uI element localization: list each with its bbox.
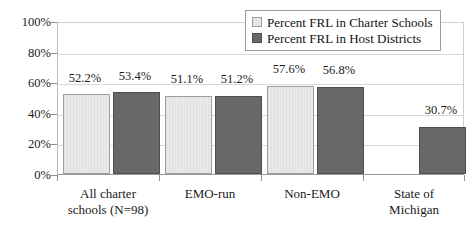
bar-host-all-charter-schools (113, 92, 160, 174)
bar-host-emo-run (215, 96, 262, 174)
legend-item-label: Percent FRL in Host Districts (267, 32, 421, 45)
y-tick-label: 100% (5, 16, 51, 29)
gridline (58, 84, 463, 85)
bar-value-label: 57.6% (273, 63, 305, 76)
x-tick-mark (159, 175, 160, 181)
legend-item-label: Percent FRL in Charter Schools (267, 16, 433, 29)
bar-host-non-emo (317, 87, 364, 174)
bar-value-label: 53.4% (119, 70, 151, 83)
bar-charter-emo-run (165, 96, 212, 174)
bar-value-label: 51.2% (221, 73, 253, 86)
y-axis: 100% 80% 60% 40% 20% 0% (0, 0, 51, 240)
bar-value-label: 56.8% (323, 64, 355, 77)
bar-value-label: 30.7% (425, 104, 457, 117)
y-tick-label: 80% (5, 46, 51, 59)
x-category-label-emo-run: EMO-run (185, 186, 236, 202)
x-tick-mark (57, 175, 58, 181)
y-tick-label: 20% (5, 138, 51, 151)
bar-charter-all-charter-schools (63, 94, 110, 174)
y-tick-label: 0% (5, 169, 51, 182)
bar-chart: 100% 80% 60% 40% 20% 0% 52.2% 53.4% 51.1… (0, 0, 474, 240)
x-tick-mark (363, 175, 364, 181)
legend-swatch-icon (252, 17, 262, 27)
legend-swatch-icon (252, 33, 262, 43)
y-tick-label: 40% (5, 108, 51, 121)
y-tick-label: 60% (5, 77, 51, 90)
bar-host-state-of-michigan (419, 127, 466, 174)
x-category-label-all-charter-schools: All charter schools (N=98) (68, 186, 149, 219)
x-category-label-non-emo: Non-EMO (284, 186, 340, 202)
legend: Percent FRL in Charter Schools Percent F… (245, 10, 441, 51)
x-category-label-state-of-michigan: State of Michigan (389, 186, 439, 219)
bar-charter-non-emo (267, 86, 314, 174)
x-tick-mark (261, 175, 262, 181)
x-tick-mark (464, 175, 465, 181)
legend-item-host-districts: Percent FRL in Host Districts (252, 30, 433, 46)
gridline (58, 54, 463, 55)
legend-item-charter-schools: Percent FRL in Charter Schools (252, 14, 433, 30)
bar-value-label: 52.2% (69, 72, 101, 85)
bar-value-label: 51.1% (171, 73, 203, 86)
